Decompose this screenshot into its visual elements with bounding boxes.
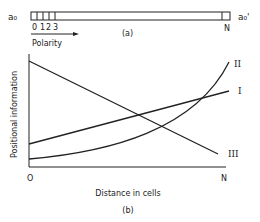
curve-ii-label: II [234, 59, 242, 69]
a0-label: a₀ [8, 12, 18, 22]
x-axis-label: Distance in cells [95, 189, 160, 198]
a0-prime-label: a₀' [238, 12, 250, 22]
curve-iii [29, 61, 218, 154]
cell-number-3: 3 [53, 23, 58, 32]
cell-row [31, 12, 230, 20]
cell-number-1: 1 [40, 23, 45, 32]
cell-number-n: N [224, 24, 230, 33]
arrow-head-icon [73, 32, 79, 36]
panel-b: Positional information II I III O N Dist… [10, 54, 242, 215]
x-end-label: N [221, 174, 227, 183]
caption-a: (a) [122, 29, 133, 38]
caption-b: (b) [122, 206, 133, 215]
x-start-label: O [27, 174, 33, 183]
positional-information-figure: a₀ a₀' 0 1 2 3 N Polarity (a) Positional… [0, 0, 260, 222]
y-axis-label: Positional information [10, 71, 19, 158]
cell-number-0: 0 [32, 23, 37, 32]
curve-i-label: I [238, 86, 242, 96]
cell-number-2: 2 [46, 23, 51, 32]
curve-iii-label: III [228, 149, 239, 159]
polarity-label: Polarity [32, 39, 62, 48]
panel-a: a₀ a₀' 0 1 2 3 N Polarity (a) [8, 12, 250, 48]
curve-i [29, 91, 229, 144]
